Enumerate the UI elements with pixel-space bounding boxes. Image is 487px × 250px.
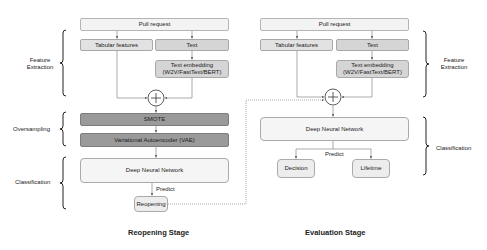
eval-text-embedding-label: Text embedding [351,62,393,69]
bracket-label-line: Extraction [22,64,58,71]
dnn-label: Deep Neural Network [126,167,183,174]
tabular-features-box: Tabular features [80,39,153,51]
vae-label: Variational Autoencoder (VAE) [114,137,195,144]
feature-extraction-bracket-label: Feature Extraction [22,57,58,71]
reopening-output-label: Reopening [136,201,165,208]
bracket-label-line: Feature [22,57,58,64]
eval-tabular-features-label: Tabular features [275,42,318,49]
decision-output-box: Decision [277,159,315,178]
eval-text-embedding-methods: (W2V/FastText/BERT) [343,69,402,76]
reopening-stage-title: Reopening Stage [128,228,189,237]
sum-circle-icon [148,89,341,106]
eval-feature-extraction-bracket-label: Feature Extraction [436,57,472,71]
pull-request-label: Pull request [139,21,171,28]
eval-text-box: Text [336,39,409,51]
classification-bracket-label: Classification [15,179,50,186]
reopening-output-box: Reopening [134,196,168,212]
lifetime-label: Lifetime [360,165,381,172]
eval-pull-request-label: Pull request [319,21,351,28]
decision-label: Decision [284,165,307,172]
text-embedding-methods: (W2V/FastText/BERT) [163,69,222,76]
text-label: Text [186,42,197,49]
eval-text-label: Text [367,42,378,49]
text-embedding-box: Text embedding (W2V/FastText/BERT) [155,60,229,78]
predict-label: Predict [156,186,175,193]
dnn-box: Deep Neural Network [80,158,229,183]
oversampling-bracket-label: Oversampling [13,126,50,133]
smote-box: SMOTE [80,113,229,126]
connector-lines [0,0,487,250]
evaluation-stage-title: Evaluation Stage [305,228,365,237]
text-embedding-label: Text embedding [171,62,213,69]
lifetime-output-box: Lifetime [352,159,390,178]
vae-box: Variational Autoencoder (VAE) [80,133,229,147]
smote-label: SMOTE [144,116,165,123]
eval-dnn-label: Deep Neural Network [306,126,363,133]
eval-text-embedding-box: Text embedding (W2V/FastText/BERT) [336,60,409,78]
eval-classification-bracket-label: Classification [436,145,471,152]
eval-dnn-box: Deep Neural Network [260,117,409,141]
bracket-label-line: Extraction [436,64,472,71]
tabular-features-label: Tabular features [95,42,138,49]
eval-tabular-features-box: Tabular features [260,39,333,51]
eval-predict-label: Predict [325,151,344,158]
eval-pull-request-box: Pull request [260,18,409,31]
pull-request-box: Pull request [80,18,229,31]
bracket-label-line: Feature [436,57,472,64]
text-box: Text [155,39,229,51]
